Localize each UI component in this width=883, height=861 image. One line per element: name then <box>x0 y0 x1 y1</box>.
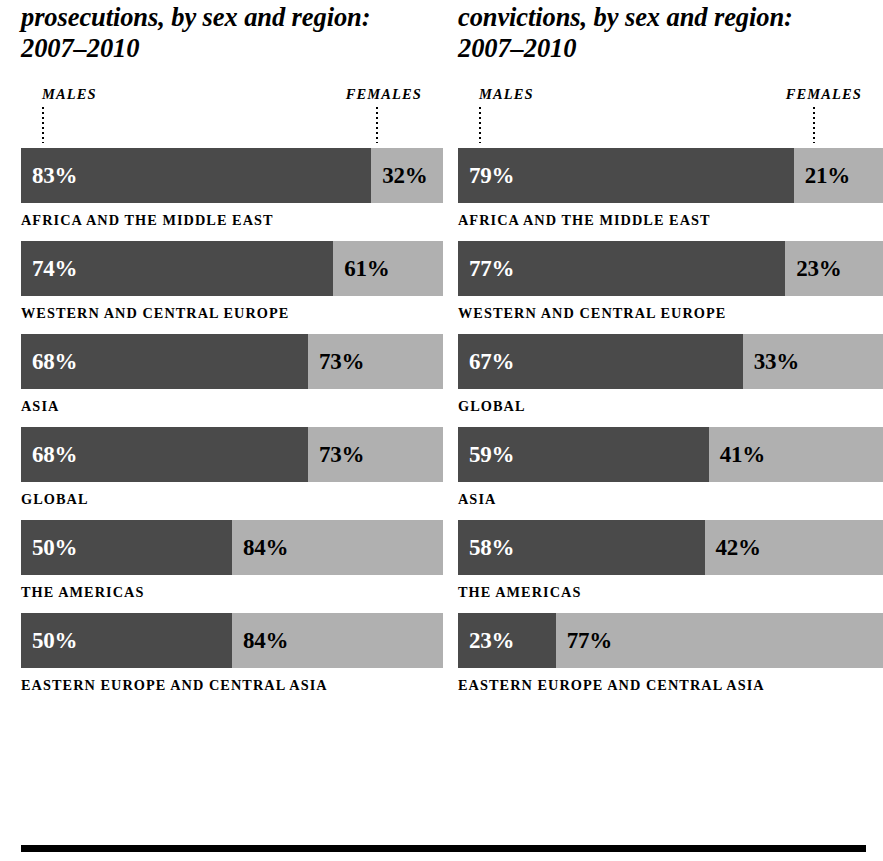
table-row: 58% 42% THE AMERICAS <box>458 520 883 601</box>
legend-convictions: MALES FEMALES <box>458 86 883 148</box>
bar-value-female: 84% <box>232 628 288 654</box>
bar-value-male: 79% <box>458 163 514 189</box>
panel-convictions: convictions, by sex and region: 2007–201… <box>443 0 883 706</box>
stacked-bar: 79% 21% <box>458 148 883 203</box>
leader-line-males-icon <box>42 107 44 143</box>
bar-value-male: 68% <box>21 349 77 375</box>
bar-row-label: AFRICA AND THE MIDDLE EAST <box>21 212 443 229</box>
bar-value-female: 61% <box>333 256 389 282</box>
bar-segment-male: 59% <box>458 427 709 482</box>
bar-segment-male: 83% <box>21 148 371 203</box>
bar-row-label: ASIA <box>458 491 883 508</box>
bar-value-female: 32% <box>371 163 427 189</box>
bar-segment-male: 77% <box>458 241 785 296</box>
legend-label-males: MALES <box>479 86 534 103</box>
table-row: 67% 33% GLOBAL <box>458 334 883 415</box>
leader-line-females-icon <box>376 107 378 143</box>
table-row: 68% 73% GLOBAL <box>21 427 443 508</box>
bar-segment-female: 21% <box>794 148 883 203</box>
bar-row-label: THE AMERICAS <box>21 584 443 601</box>
stacked-bar: 77% 23% <box>458 241 883 296</box>
bar-segment-female: 84% <box>232 613 443 668</box>
bar-value-male: 59% <box>458 442 514 468</box>
bar-segment-female: 41% <box>709 427 883 482</box>
bar-row-label: WESTERN AND CENTRAL EUROPE <box>21 305 443 322</box>
stacked-bar: 58% 42% <box>458 520 883 575</box>
table-row: 74% 61% WESTERN AND CENTRAL EUROPE <box>21 241 443 322</box>
legend-label-males: MALES <box>42 86 97 103</box>
stacked-bar: 50% 84% <box>21 613 443 668</box>
bar-value-male: 83% <box>21 163 77 189</box>
bar-value-male: 67% <box>458 349 514 375</box>
bar-segment-male: 50% <box>21 520 232 575</box>
bar-rows-convictions: 79% 21% AFRICA AND THE MIDDLE EAST 77% <box>458 148 883 694</box>
legend-prosecutions: MALES FEMALES <box>21 86 443 148</box>
bar-row-label: EASTERN EUROPE AND CENTRAL ASIA <box>21 677 443 694</box>
bar-value-male: 58% <box>458 535 514 561</box>
bar-segment-male: 58% <box>458 520 705 575</box>
bar-segment-female: 61% <box>333 241 443 296</box>
bar-value-male: 50% <box>21 535 77 561</box>
table-row: 77% 23% WESTERN AND CENTRAL EUROPE <box>458 241 883 322</box>
bar-value-female: 41% <box>709 442 765 468</box>
bar-row-label: WESTERN AND CENTRAL EUROPE <box>458 305 883 322</box>
bar-segment-male: 50% <box>21 613 232 668</box>
bar-row-label: THE AMERICAS <box>458 584 883 601</box>
stacked-bar: 59% 41% <box>458 427 883 482</box>
bar-value-male: 23% <box>458 628 514 654</box>
bar-row-label: AFRICA AND THE MIDDLE EAST <box>458 212 883 229</box>
stacked-bar: 83% 32% <box>21 148 443 203</box>
bar-segment-male: 74% <box>21 241 333 296</box>
bar-value-female: 84% <box>232 535 288 561</box>
table-row: 50% 84% EASTERN EUROPE AND CENTRAL ASIA <box>21 613 443 694</box>
bottom-divider <box>21 845 866 852</box>
table-row: 50% 84% THE AMERICAS <box>21 520 443 601</box>
legend-label-females: FEMALES <box>346 86 422 103</box>
bar-value-female: 42% <box>705 535 761 561</box>
bar-segment-female: 33% <box>743 334 883 389</box>
legend-label-females: FEMALES <box>786 86 862 103</box>
bar-value-female: 21% <box>794 163 850 189</box>
table-row: 68% 73% ASIA <box>21 334 443 415</box>
bar-row-label: GLOBAL <box>458 398 883 415</box>
bar-value-female: 73% <box>308 442 364 468</box>
bar-segment-female: 77% <box>556 613 883 668</box>
bar-segment-female: 42% <box>705 520 883 575</box>
bar-segment-male: 68% <box>21 334 308 389</box>
bar-value-female: 77% <box>556 628 612 654</box>
bar-segment-female: 84% <box>232 520 443 575</box>
bar-segment-male: 67% <box>458 334 743 389</box>
leader-line-males-icon <box>479 107 481 143</box>
panel-title: convictions, by sex and region: 2007–201… <box>458 0 828 64</box>
bar-rows-prosecutions: 83% 32% AFRICA AND THE MIDDLE EAST 74% <box>21 148 443 694</box>
stacked-bar: 68% 73% <box>21 334 443 389</box>
stacked-bar: 23% 77% <box>458 613 883 668</box>
panel-container: prosecutions, by sex and region: 2007–20… <box>0 0 883 706</box>
bar-segment-male: 79% <box>458 148 794 203</box>
stacked-bar: 50% 84% <box>21 520 443 575</box>
panel-title: prosecutions, by sex and region: 2007–20… <box>21 0 391 64</box>
bar-segment-female: 73% <box>308 427 443 482</box>
figure-root: prosecutions, by sex and region: 2007–20… <box>0 0 883 861</box>
table-row: 79% 21% AFRICA AND THE MIDDLE EAST <box>458 148 883 229</box>
bar-segment-female: 73% <box>308 334 443 389</box>
bar-segment-female: 23% <box>785 241 883 296</box>
table-row: 59% 41% ASIA <box>458 427 883 508</box>
leader-line-females-icon <box>813 107 815 143</box>
stacked-bar: 67% 33% <box>458 334 883 389</box>
table-row: 83% 32% AFRICA AND THE MIDDLE EAST <box>21 148 443 229</box>
stacked-bar: 74% 61% <box>21 241 443 296</box>
bar-segment-female: 32% <box>371 148 443 203</box>
bar-segment-male: 23% <box>458 613 556 668</box>
bar-value-male: 50% <box>21 628 77 654</box>
stacked-bar: 68% 73% <box>21 427 443 482</box>
bar-value-male: 74% <box>21 256 77 282</box>
bar-row-label: ASIA <box>21 398 443 415</box>
bar-value-male: 77% <box>458 256 514 282</box>
bar-segment-male: 68% <box>21 427 308 482</box>
bar-value-male: 68% <box>21 442 77 468</box>
bar-value-female: 33% <box>743 349 799 375</box>
bar-value-female: 23% <box>785 256 841 282</box>
panel-prosecutions: prosecutions, by sex and region: 2007–20… <box>0 0 443 706</box>
bar-value-female: 73% <box>308 349 364 375</box>
